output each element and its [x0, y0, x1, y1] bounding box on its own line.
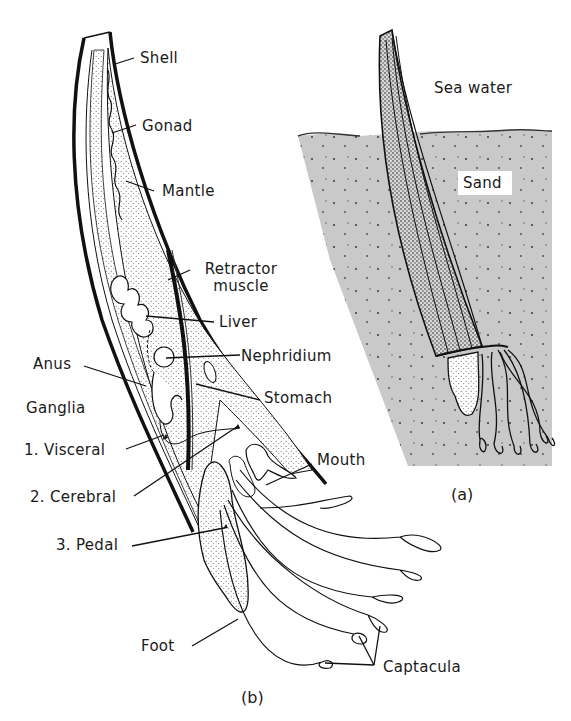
label-sand: Sand: [463, 175, 502, 192]
label-foot: Foot: [141, 638, 175, 655]
panel-b-caption: (b): [241, 688, 264, 707]
label-nephridium: Nephridium: [241, 348, 332, 365]
label-cerebral-ganglion: 2. Cerebral: [30, 489, 116, 506]
label-mantle: Mantle: [162, 183, 215, 200]
label-retractor-muscle: Retractor muscle: [196, 261, 286, 295]
label-ganglia: Ganglia: [26, 400, 85, 417]
panel-a-caption: (a): [451, 485, 473, 504]
nephridium: [154, 347, 174, 367]
captacula-b: [220, 470, 441, 668]
label-retractor-line1: Retractor: [196, 261, 286, 278]
label-retractor-line2: muscle: [196, 278, 286, 295]
label-stomach: Stomach: [264, 390, 332, 407]
label-shell: Shell: [140, 50, 178, 67]
label-sea-water: Sea water: [434, 80, 512, 97]
label-mouth: Mouth: [317, 452, 366, 469]
panel-a-scene: [298, 30, 555, 466]
label-visceral-ganglion: 1. Visceral: [24, 442, 105, 459]
label-anus: Anus: [33, 356, 71, 373]
label-captacula: Captacula: [383, 659, 461, 676]
label-pedal-ganglion: 3. Pedal: [56, 537, 118, 554]
label-liver: Liver: [219, 314, 257, 331]
label-gonad: Gonad: [142, 118, 193, 135]
